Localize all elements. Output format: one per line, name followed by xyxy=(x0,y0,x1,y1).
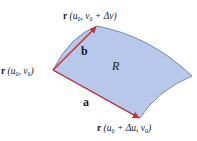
surface-patch-diagram: R b a r (u0, v0 + Δv) r (u0, v0) r (u0 +… xyxy=(0,0,197,141)
region-label: R xyxy=(111,59,120,73)
vector-b-label: b xyxy=(81,44,88,58)
point-origin-label: r (u0, v0) xyxy=(1,66,34,77)
region-r-patch xyxy=(53,26,192,118)
point-bottom-label: r (u0 + Δu, v0) xyxy=(97,123,151,134)
point-top-label: r (u0, v0 + Δv) xyxy=(63,11,117,22)
vector-a-label: a xyxy=(83,95,89,109)
